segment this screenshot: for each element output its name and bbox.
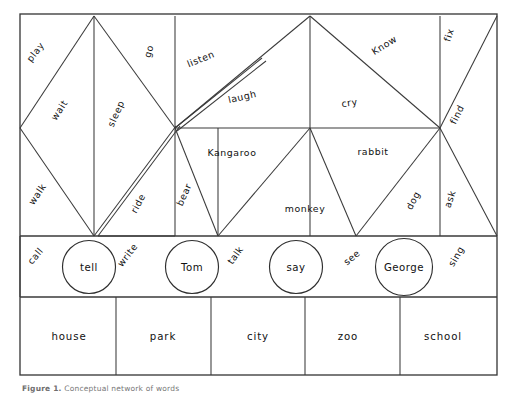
place-label-zoo: zoo [338,331,359,342]
name-node-group [63,239,433,296]
edge-label-write: write [115,241,140,269]
edge-label-listen: listen [185,48,216,69]
node-label-say: say [286,262,305,273]
edge-label-know: Know [369,33,398,57]
edge-know [310,16,440,128]
node-label-george: George [384,262,424,273]
edge-label-ride: ride [128,192,147,215]
edge-label-monkey: monkey [285,203,326,214]
edge-label-see: see [341,247,362,267]
figure-caption: Figure 1. Conceptual network of words [22,384,179,393]
edge-label-bear: bear [174,182,194,208]
edge-bear [175,128,218,236]
edge-walk-down [20,128,94,236]
edge-label-sleep: sleep [105,99,126,129]
place-label-city: city [247,331,269,342]
edge-dog [356,128,440,236]
place-label-school: school [424,331,462,342]
edge-label-talk: talk [225,244,245,266]
figure-caption-text: Conceptual network of words [64,384,179,393]
edge-label-play: play [24,40,46,64]
place-label-house: house [51,331,86,342]
edge-label-cry: cry [341,96,359,109]
place-label-park: park [150,331,176,342]
word-network-diagram: tell Tom say George house park city zoo … [0,0,516,396]
edge-label-ask: ask [442,189,458,209]
edge-label-go: go [142,43,156,58]
edge-label-wait: wait [48,98,69,122]
edge-monkey-left [310,128,356,236]
edge-label-dog: dog [404,189,423,211]
node-label-tell: tell [80,262,98,273]
edge-ask [440,128,497,236]
figure-root: tell Tom say George house park city zoo … [0,0,516,396]
edge-go-sleep [94,16,175,128]
edge-label-laugh: laugh [227,88,258,105]
edge-label-find: find [448,103,467,126]
edge-label-rabbit: rabbit [357,146,388,157]
edge-label-sing: sing [446,244,466,268]
node-label-tom: Tom [180,262,203,273]
diagram-frame [20,14,497,375]
edge-ride-inner [98,126,180,236]
edge-ride-outer [94,126,176,236]
edge-label-fix: fix [441,27,455,43]
edge-label-walk: walk [26,181,48,207]
edge-kangaroo-right [218,128,310,236]
edge-label-kangaroo: Kangaroo [208,147,257,158]
edge-laugh [175,16,310,128]
figure-caption-prefix: Figure 1. [22,384,62,393]
edge-label-call: call [25,245,45,266]
